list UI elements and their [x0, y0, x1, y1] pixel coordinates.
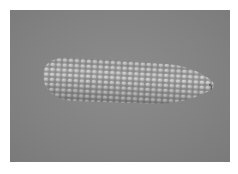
photograph	[10, 10, 230, 162]
corn-ear	[36, 51, 218, 112]
